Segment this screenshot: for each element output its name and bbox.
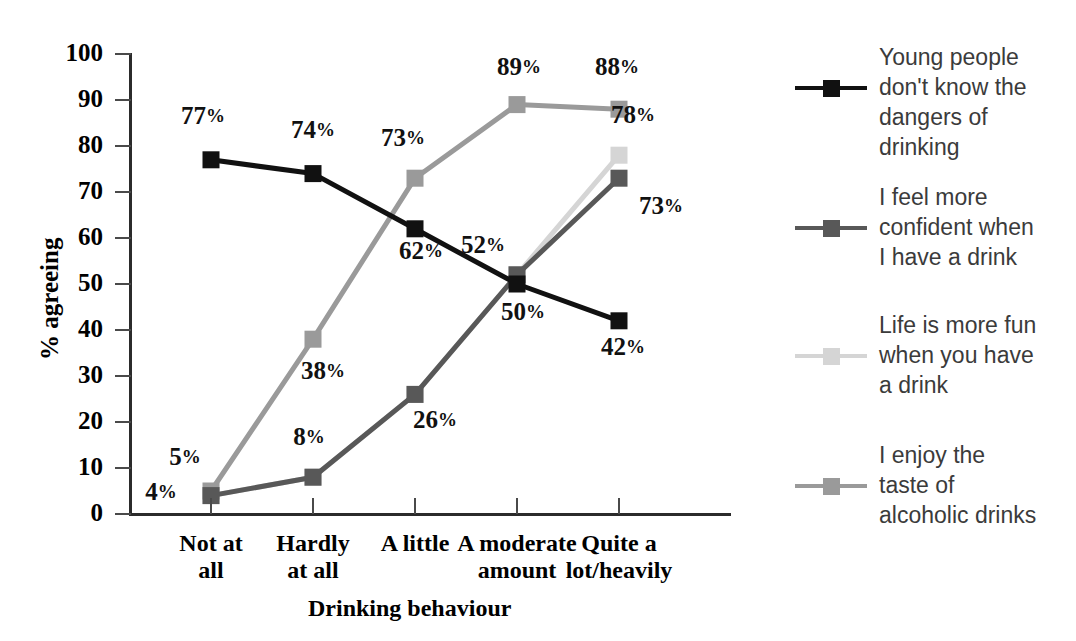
data-point-label: 73% <box>381 125 425 152</box>
x-tick-mark <box>618 498 620 514</box>
y-tick-mark <box>115 329 131 331</box>
y-tick-label: 0 <box>43 500 103 525</box>
legend-label-line: don't know the <box>879 72 1076 102</box>
data-point-value: 52 <box>461 231 486 258</box>
legend-label-line: when you have <box>879 340 1076 370</box>
legend-label: Young peopledon't know thedangers ofdrin… <box>879 42 1076 162</box>
percent-sign: % <box>182 446 201 467</box>
data-point-value: 62 <box>399 237 424 264</box>
legend-marker <box>823 220 840 237</box>
y-tick-mark <box>115 99 131 101</box>
percent-sign: % <box>522 56 541 77</box>
data-point-value: 50 <box>501 298 526 325</box>
legend-label-line: Life is more fun <box>879 310 1076 340</box>
data-point-value: 88 <box>595 53 620 80</box>
data-point-label: 73% <box>639 193 683 220</box>
series-marker <box>611 312 628 329</box>
y-tick-label: 10 <box>43 454 103 479</box>
series-marker <box>305 469 322 486</box>
legend-swatch-icon <box>795 473 867 499</box>
legend-label-line: dangers of <box>879 102 1076 132</box>
y-axis-title: % agreeing <box>36 238 64 360</box>
series-marker <box>407 220 424 237</box>
series-marker <box>611 170 628 187</box>
x-tick-mark <box>210 498 212 514</box>
x-tick-mark <box>516 498 518 514</box>
y-tick-label: 30 <box>43 362 103 387</box>
percent-sign: % <box>620 56 639 77</box>
data-point-value: 89 <box>497 53 522 80</box>
y-tick-mark <box>115 375 131 377</box>
data-point-label: 5% <box>169 444 201 471</box>
percent-sign: % <box>486 234 505 255</box>
series-2 <box>203 147 628 504</box>
x-tick-mark <box>414 498 416 514</box>
legend-label-line: I feel more <box>879 182 1076 212</box>
data-point-value: 4 <box>145 478 158 505</box>
y-tick-mark <box>115 191 131 193</box>
data-point-label: 52% <box>461 232 505 259</box>
percent-sign: % <box>206 105 225 126</box>
y-tick-mark <box>115 283 131 285</box>
data-point-value: 78 <box>611 101 636 128</box>
y-tick-mark <box>115 237 131 239</box>
chart-canvas: 0102030405060708090100 Not at allHardly … <box>0 0 1076 641</box>
percent-sign: % <box>158 481 177 502</box>
y-tick-label: 80 <box>43 132 103 157</box>
data-point-label: 78% <box>611 102 655 129</box>
percent-sign: % <box>424 240 443 261</box>
y-tick-label: 20 <box>43 408 103 433</box>
data-point-label: 88% <box>595 54 639 81</box>
series-marker <box>611 147 628 164</box>
legend-label-line: I enjoy the <box>879 440 1076 470</box>
legend-label: I enjoy thetaste ofalcoholic drinks <box>879 440 1076 530</box>
x-axis-title: Drinking behaviour <box>308 595 511 622</box>
legend-marker <box>823 478 840 495</box>
percent-sign: % <box>438 409 457 430</box>
data-point-value: 38 <box>301 357 326 384</box>
x-tick-mark <box>312 498 314 514</box>
data-point-label: 89% <box>497 54 541 81</box>
series-marker <box>509 96 526 113</box>
data-point-label: 62% <box>399 238 443 265</box>
legend-swatch-icon <box>795 75 867 101</box>
series-marker <box>407 386 424 403</box>
legend-label: I feel moreconfident whenI have a drink <box>879 182 1076 272</box>
series-3 <box>203 96 628 499</box>
data-point-value: 74 <box>291 116 316 143</box>
y-tick-mark <box>115 53 131 55</box>
y-tick-mark <box>115 513 131 515</box>
percent-sign: % <box>526 301 545 322</box>
series-line <box>211 155 619 495</box>
percent-sign: % <box>626 336 645 357</box>
data-point-label: 74% <box>291 117 335 144</box>
data-point-value: 77 <box>181 102 206 129</box>
y-tick-mark <box>115 421 131 423</box>
legend-swatch-icon <box>795 343 867 369</box>
percent-sign: % <box>406 127 425 148</box>
data-point-value: 73 <box>381 124 406 151</box>
legend-label-line: a drink <box>879 370 1076 400</box>
legend-label-line: alcoholic drinks <box>879 500 1076 530</box>
y-tick-label: 90 <box>43 86 103 111</box>
data-point-value: 73 <box>639 192 664 219</box>
legend-marker <box>823 80 840 97</box>
data-point-label: 38% <box>301 358 345 385</box>
series-marker <box>509 276 526 293</box>
legend-label-line: I have a drink <box>879 242 1076 272</box>
data-point-label: 50% <box>501 299 545 326</box>
data-point-value: 26 <box>413 406 438 433</box>
percent-sign: % <box>326 360 345 381</box>
x-tick-label: Quite a lot/heavily <box>529 530 709 584</box>
data-point-label: 4% <box>145 479 177 506</box>
data-point-label: 77% <box>181 103 225 130</box>
chart-legend: Young peopledon't know thedangers ofdrin… <box>795 40 1076 600</box>
legend-marker <box>823 348 840 365</box>
legend-label-line: confident when <box>879 212 1076 242</box>
data-point-label: 8% <box>293 424 325 451</box>
legend-label-line: drinking <box>879 132 1076 162</box>
y-tick-label: 100 <box>43 40 103 65</box>
legend-label-line: taste of <box>879 470 1076 500</box>
data-point-label: 26% <box>413 407 457 434</box>
percent-sign: % <box>316 119 335 140</box>
